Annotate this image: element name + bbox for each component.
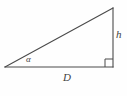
right-angle-marker-icon (105, 59, 113, 67)
base-length-label: D (63, 72, 71, 83)
edge-hypotenuse-line (5, 8, 113, 67)
triangle-figure: α D h (0, 0, 127, 96)
angle-alpha-label: α (26, 55, 31, 64)
triangle-outline (5, 8, 113, 67)
height-label: h (116, 29, 122, 40)
